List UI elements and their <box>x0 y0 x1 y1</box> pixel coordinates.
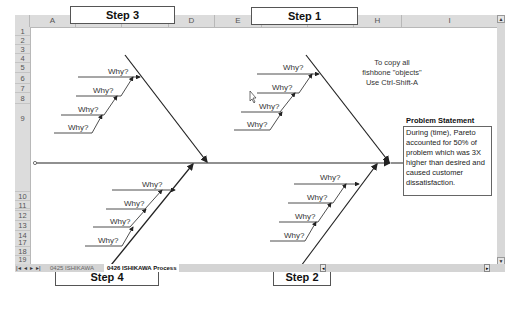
note-line-3: Use Ctrl-Shift-A <box>352 78 432 88</box>
scroll-left-button[interactable]: ◂ <box>320 264 326 272</box>
note-line-1: To copy all <box>352 58 432 68</box>
scroll-up-button[interactable]: ▲ <box>497 15 505 23</box>
why-label[interactable]: Why? <box>259 102 279 111</box>
next-sheet-icon[interactable]: ▸ <box>30 264 33 272</box>
why-label[interactable]: Why? <box>295 212 315 221</box>
step-1-box[interactable]: Step 1 <box>251 7 358 25</box>
why-label[interactable]: Why? <box>283 63 303 72</box>
problem-statement-box[interactable]: During (time), Pareto accounted for 50% … <box>403 126 492 196</box>
why-label[interactable]: Why? <box>272 83 292 92</box>
why-label[interactable]: Why? <box>320 173 340 182</box>
why-label[interactable]: Why? <box>93 86 113 95</box>
why-label[interactable]: Why? <box>78 105 98 114</box>
why-label[interactable]: Why? <box>307 193 327 202</box>
why-label[interactable]: Why? <box>98 236 118 245</box>
why-label[interactable]: Why? <box>110 217 130 226</box>
why-label[interactable]: Why? <box>108 67 128 76</box>
scroll-right-button[interactable]: ▸ <box>484 264 490 272</box>
step-3-box[interactable]: Step 3 <box>70 6 175 24</box>
why-label[interactable]: Why? <box>124 199 144 208</box>
why-label[interactable]: Why? <box>247 120 267 129</box>
last-sheet-icon[interactable]: ▸| <box>36 264 41 272</box>
why-label[interactable]: Why? <box>68 123 88 132</box>
note-line-2: fishbone "objects" <box>352 68 432 78</box>
horizontal-scrollbar[interactable]: ◂ ▸ <box>320 264 490 272</box>
first-sheet-icon[interactable]: |◂ <box>16 264 21 272</box>
mouse-cursor-icon <box>250 91 256 103</box>
why-label[interactable]: Why? <box>142 180 162 189</box>
prev-sheet-icon[interactable]: ◂ <box>24 264 27 272</box>
sheet-tab-0425[interactable]: 0425 ISHIKAWA <box>47 264 97 272</box>
sheet-tab-0426[interactable]: 0426 ISHIKAWA Process <box>104 264 179 272</box>
vertical-scrollbar[interactable]: ▲ ▼ <box>497 15 505 265</box>
copy-instructions-note: To copy all fishbone "objects" Use Ctrl-… <box>352 58 432 88</box>
problem-statement-title: Problem Statement <box>406 116 474 125</box>
why-label[interactable]: Why? <box>284 231 304 240</box>
